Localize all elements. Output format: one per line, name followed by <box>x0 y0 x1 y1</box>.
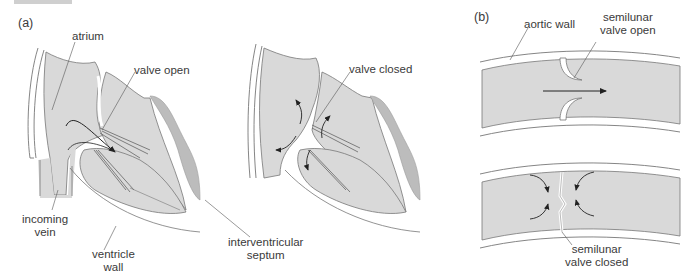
label-incoming-vein: incoming vein <box>22 213 68 239</box>
aorta-valve-closed <box>480 163 680 248</box>
label-ventricle-wall: ventricle wall <box>92 248 135 274</box>
label-valve-closed: valve closed <box>349 63 412 76</box>
label-valve-open: valve open <box>134 64 190 77</box>
panel-label-b: (b) <box>474 10 489 24</box>
aorta-lumen <box>482 59 680 128</box>
panel-label-a: (a) <box>18 16 33 30</box>
label-interventricular-septum: interventricular septum <box>228 236 303 262</box>
label-atrium: atrium <box>72 30 104 43</box>
aorta-valve-open <box>480 28 680 136</box>
label-ventricle-wall-line1: ventricle <box>92 248 135 261</box>
outer-wall <box>28 48 38 158</box>
label-ventricle-wall-line2: wall <box>92 261 135 274</box>
label-semilunar-valve-closed: semilunar valve closed <box>565 243 628 269</box>
label-semilunar-open-line1: semilunar <box>600 11 656 24</box>
label-semilunar-open-line2: valve open <box>600 24 656 37</box>
label-incoming-vein-line1: incoming <box>22 213 68 226</box>
label-semilunar-closed-line1: semilunar <box>565 243 628 256</box>
aorta-lumen-closed <box>482 171 680 240</box>
label-semilunar-closed-line2: valve closed <box>565 256 628 269</box>
label-septum-line1: interventricular <box>228 236 303 249</box>
label-incoming-vein-line2: vein <box>22 226 68 239</box>
heart-valve-diagram <box>0 0 695 280</box>
label-aortic-wall: aortic wall <box>524 18 575 31</box>
label-semilunar-valve-open: semilunar valve open <box>600 11 656 37</box>
label-septum-line2: septum <box>228 249 303 262</box>
